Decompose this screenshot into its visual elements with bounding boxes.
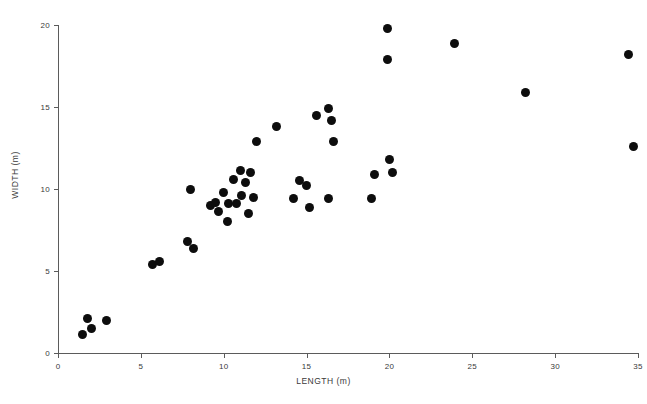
x-tick-mark xyxy=(638,353,639,358)
x-axis-line xyxy=(58,353,639,354)
data-point xyxy=(521,88,530,97)
x-tick-label: 20 xyxy=(385,362,395,371)
data-point xyxy=(246,168,255,177)
data-point xyxy=(367,194,376,203)
x-tick-mark xyxy=(472,353,473,358)
x-axis-title: LENGTH (m) xyxy=(0,376,647,386)
data-point xyxy=(324,104,333,113)
data-point xyxy=(189,244,198,253)
x-tick-mark xyxy=(307,353,308,358)
data-point xyxy=(327,116,336,125)
data-point xyxy=(78,330,87,339)
data-point xyxy=(186,185,195,194)
data-point xyxy=(624,50,633,59)
y-axis-title: WIDTH (m) xyxy=(10,130,20,220)
y-tick-label: 15 xyxy=(30,103,50,112)
data-point xyxy=(324,194,333,203)
y-tick-label: 10 xyxy=(30,185,50,194)
data-point xyxy=(370,170,379,179)
y-tick-label: 20 xyxy=(30,21,50,30)
x-tick-mark xyxy=(555,353,556,358)
data-point xyxy=(383,55,392,64)
data-point xyxy=(305,203,314,212)
data-point xyxy=(302,181,311,190)
x-tick-mark xyxy=(141,353,142,358)
scatter-plot-figure: 05101520253035 05101520 LENGTH (m) WIDTH… xyxy=(0,0,647,404)
data-point xyxy=(450,39,459,48)
data-point xyxy=(329,137,338,146)
x-tick-mark xyxy=(389,353,390,358)
x-tick-label: 15 xyxy=(302,362,312,371)
x-tick-label: 5 xyxy=(138,362,143,371)
data-point xyxy=(237,191,246,200)
data-point xyxy=(87,324,96,333)
data-point xyxy=(229,175,238,184)
data-point xyxy=(223,217,232,226)
data-point xyxy=(236,166,245,175)
x-tick-label: 25 xyxy=(468,362,478,371)
data-point xyxy=(289,194,298,203)
data-point xyxy=(102,316,111,325)
data-point xyxy=(155,257,164,266)
x-tick-label: 0 xyxy=(56,362,61,371)
x-tick-label: 35 xyxy=(633,362,643,371)
x-tick-label: 10 xyxy=(219,362,229,371)
data-point xyxy=(211,198,220,207)
x-tick-label: 30 xyxy=(550,362,560,371)
data-point xyxy=(629,142,638,151)
data-point xyxy=(312,111,321,120)
x-tick-mark xyxy=(224,353,225,358)
data-point xyxy=(272,122,281,131)
data-point xyxy=(385,155,394,164)
data-point xyxy=(388,168,397,177)
data-point xyxy=(241,178,250,187)
data-point xyxy=(252,137,261,146)
data-point xyxy=(214,207,223,216)
y-tick-label: 0 xyxy=(30,349,50,358)
data-point xyxy=(244,209,253,218)
data-point xyxy=(83,314,92,323)
data-point xyxy=(232,199,241,208)
data-point xyxy=(383,24,392,33)
plot-area xyxy=(58,25,638,353)
y-tick-label: 5 xyxy=(30,267,50,276)
data-point xyxy=(219,188,228,197)
y-tick-mark xyxy=(54,353,59,354)
data-point xyxy=(249,193,258,202)
